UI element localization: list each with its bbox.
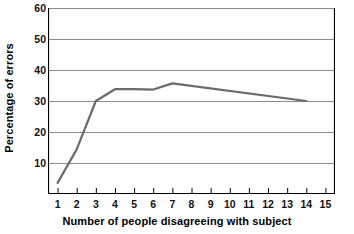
y-axis-tick-label: 50 — [20, 34, 46, 44]
x-axis-title: Number of people disagreeing with subjec… — [0, 215, 354, 227]
y-axis-tick-label: 10 — [20, 158, 46, 168]
y-axis-tick-label: 60 — [20, 3, 46, 13]
y-axis-tick-label: 40 — [20, 65, 46, 75]
y-axis-title-text: Percentage of errors — [3, 43, 15, 153]
y-axis-tick-label: 30 — [20, 96, 46, 106]
plot-svg — [48, 8, 335, 194]
y-axis-title: Percentage of errors — [0, 0, 18, 196]
line-chart: Percentage of errors 102030405060 123456… — [0, 0, 354, 234]
y-axis-tick-labels: 102030405060 — [18, 0, 46, 196]
x-axis-tick-label: 15 — [313, 198, 337, 210]
x-axis-tick-labels: 123456789101112131415 — [48, 198, 335, 214]
plot-area — [48, 8, 335, 194]
y-axis-tick-label: 20 — [20, 127, 46, 137]
